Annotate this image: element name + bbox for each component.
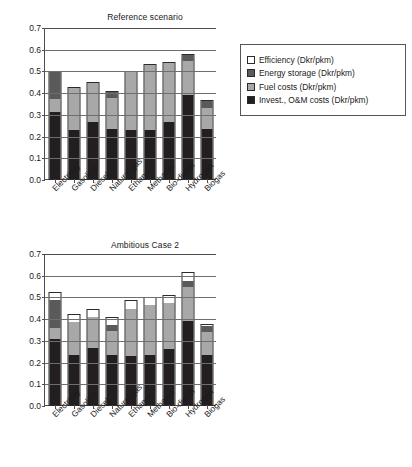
bar-segment[interactable] [49,72,60,99]
gridline [45,254,216,255]
gridline [45,158,216,159]
bar-segment[interactable] [68,322,79,355]
legend-item[interactable]: Fuel costs (Dkr/pkm) [247,82,398,92]
bar-segment[interactable] [183,61,194,96]
figure-root: Reference scenario 0.00.10.20.30.40.50.6… [0,0,412,467]
bar-segment[interactable] [49,328,60,339]
gridline [45,297,216,298]
bar-segment[interactable] [125,72,136,129]
y-axis-tick-mark [42,341,46,342]
y-axis-tick-label: 0.5 [29,292,41,302]
legend-item[interactable]: Energy storage (Dkr/pkm) [247,68,398,78]
bar-segment[interactable] [87,317,98,348]
stacked-bar[interactable] [106,318,117,405]
y-axis-tick-label: 0.6 [29,271,41,281]
y-axis-tick-label: 0.2 [29,358,41,368]
bar-segment[interactable] [183,273,194,281]
bar-segment[interactable] [202,332,213,355]
gridline [45,363,216,364]
y-axis-tick-label: 0.0 [29,175,41,185]
bar-segment[interactable] [49,300,60,327]
chart-title-bottom: Ambitious Case 2 [60,240,230,250]
stacked-bar[interactable] [106,92,117,179]
y-axis-tick-mark [42,50,46,51]
bar-segment[interactable] [87,83,98,122]
y-axis-tick-mark [42,384,46,385]
y-axis-tick-mark [42,180,46,181]
legend-item-label: Energy storage (Dkr/pkm) [259,68,355,78]
y-axis-tick-label: 0.4 [29,314,41,324]
gridline [45,319,216,320]
bar-segment[interactable] [145,65,156,129]
bar-segment[interactable] [202,108,213,129]
bar-segment[interactable] [87,310,98,317]
gridline [45,28,216,29]
plot-area-bottom: 0.00.10.20.30.40.50.60.7 [44,254,216,406]
y-axis-tick-mark [42,28,46,29]
stacked-bar[interactable] [145,298,156,405]
bar-segment[interactable] [106,331,117,356]
legend-swatch-energy-storage [247,69,255,77]
y-axis-tick-label: 0.7 [29,23,41,33]
y-axis-tick-mark [42,115,46,116]
y-axis-tick-label: 0.1 [29,379,41,389]
legend-swatch-invest-om [247,96,255,104]
stacked-bar[interactable] [49,293,60,405]
bar-segment[interactable] [49,112,60,179]
gridline [45,93,216,94]
bar-segment[interactable] [106,98,117,129]
bar-segment[interactable] [49,99,60,112]
y-axis-tick-label: 0.2 [29,132,41,142]
bar-segment[interactable] [145,305,156,355]
gridline [45,384,216,385]
bar-segment[interactable] [145,298,156,305]
legend-item-label: Fuel costs (Dkr/pkm) [259,82,336,92]
y-axis-tick-label: 0.7 [29,249,41,259]
y-axis-tick-mark [42,93,46,94]
gridline [45,71,216,72]
y-axis-tick-mark [42,276,46,277]
y-axis-tick-label: 0.3 [29,336,41,346]
y-axis-tick-label: 0.0 [29,401,41,411]
bar-segment[interactable] [125,309,136,356]
y-axis-tick-mark [42,363,46,364]
y-axis-tick-label: 0.5 [29,66,41,76]
legend: Efficiency (Dkr/pkm)Energy storage (Dkr/… [240,44,406,116]
y-axis-tick-mark [42,254,46,255]
gridline [45,115,216,116]
legend-item[interactable]: Efficiency (Dkr/pkm) [247,55,398,65]
chart-title-top: Reference scenario [60,12,230,22]
y-axis-tick-label: 0.3 [29,110,41,120]
bar-segment[interactable] [164,303,175,349]
stacked-bar[interactable] [145,65,156,179]
y-axis-tick-mark [42,158,46,159]
y-axis-tick-mark [42,319,46,320]
y-axis-tick-mark [42,71,46,72]
chart-panel-ambitious-case-2: Ambitious Case 2 0.00.10.20.30.40.50.60.… [0,235,412,467]
y-axis-tick-label: 0.6 [29,45,41,55]
y-axis-tick-mark [42,406,46,407]
gridline [45,50,216,51]
legend-item[interactable]: Invest., O&M costs (Dkr/pkm) [247,95,398,105]
gridline [45,137,216,138]
y-axis-tick-label: 0.4 [29,88,41,98]
chart-panel-reference-scenario: Reference scenario 0.00.10.20.30.40.50.6… [0,0,412,235]
bar-segment[interactable] [49,339,60,405]
legend-swatch-efficiency [247,56,255,64]
gridline [45,276,216,277]
bar-segment[interactable] [183,287,194,321]
stacked-bar[interactable] [49,72,60,179]
legend-item-label: Efficiency (Dkr/pkm) [259,55,334,65]
plot-area-top: 0.00.10.20.30.40.50.60.7 [44,28,216,180]
gridline [45,341,216,342]
y-axis-tick-mark [42,137,46,138]
y-axis-tick-mark [42,297,46,298]
y-axis-tick-label: 0.1 [29,153,41,163]
bar-segment[interactable] [202,101,213,108]
legend-swatch-fuel-costs [247,83,255,91]
legend-item-label: Invest., O&M costs (Dkr/pkm) [259,95,368,105]
bar-segment[interactable] [125,301,136,309]
